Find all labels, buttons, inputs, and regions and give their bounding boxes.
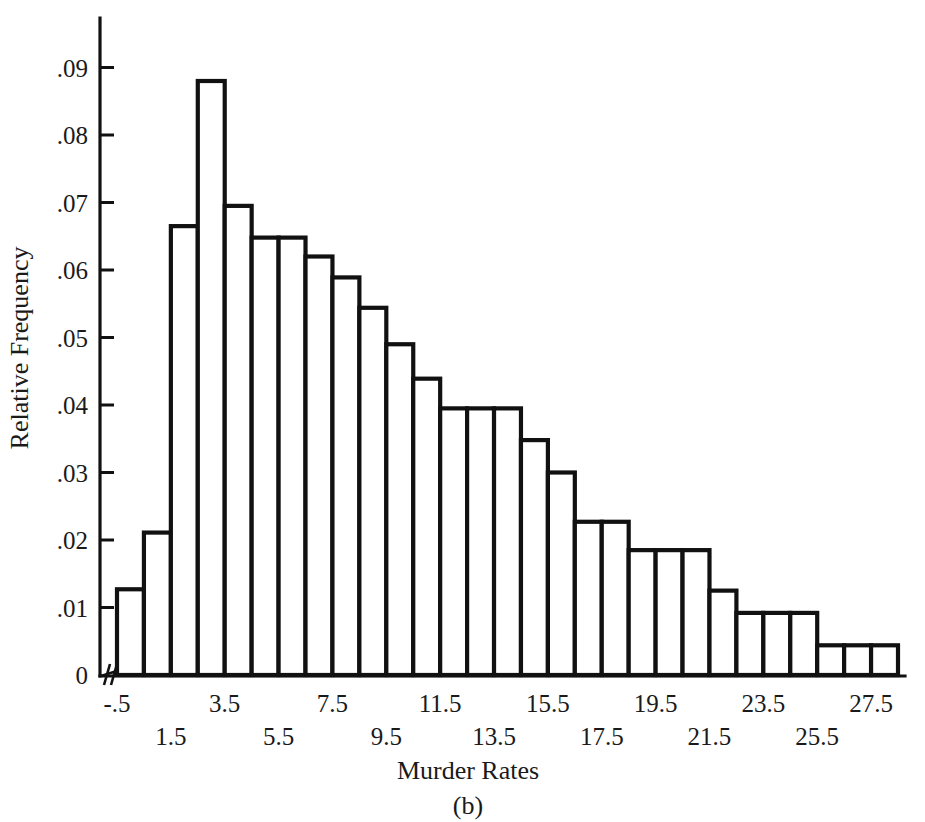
histogram-bar (763, 613, 790, 675)
histogram-bar (359, 308, 386, 675)
y-axis-tick-label: .05 (57, 325, 88, 352)
histogram-bar (279, 238, 306, 675)
y-axis-tick-label: 0 (76, 662, 89, 689)
histogram-bar (494, 408, 521, 675)
histogram-bar (844, 645, 871, 675)
x-axis-tick-label: 15.5 (526, 690, 570, 717)
y-axis-tick-label: .09 (57, 55, 88, 82)
x-axis-tick-label: 1.5 (155, 723, 186, 750)
y-axis-tick-label: .03 (57, 460, 88, 487)
histogram-bar (225, 206, 252, 675)
histogram-bar (521, 440, 548, 675)
histogram-bar (817, 645, 844, 675)
histogram-bar (332, 277, 359, 675)
histogram-bar (144, 533, 171, 675)
y-axis-tick-label: .08 (57, 122, 88, 149)
y-axis-tick-label: .06 (57, 257, 88, 284)
x-axis-tick-label: 3.5 (209, 690, 240, 717)
y-axis-tick-labels: 0.01.02.03.04.05.06.07.08.09 (57, 55, 89, 690)
x-axis-title: Murder Rates (397, 756, 539, 785)
histogram-bar (440, 408, 467, 675)
histogram-bar (790, 613, 817, 675)
histogram-bar (548, 473, 575, 676)
y-axis-tick-label: .01 (57, 595, 88, 622)
y-axis-ticks (100, 68, 114, 676)
histogram-bar (467, 408, 494, 675)
histogram-bar (252, 238, 279, 675)
x-axis-tick-label: -.5 (103, 690, 130, 717)
histogram-bars (117, 81, 898, 675)
histogram-bar (871, 645, 898, 675)
y-axis-tick-label: .07 (57, 190, 88, 217)
histogram-bar (198, 81, 225, 675)
histogram-bar (117, 589, 144, 675)
x-axis-tick-label: 21.5 (688, 723, 732, 750)
x-axis-tick-label: 11.5 (419, 690, 462, 717)
x-axis-tick-label: 19.5 (634, 690, 678, 717)
histogram-bar (306, 257, 333, 676)
x-axis-tick-label: 17.5 (580, 723, 624, 750)
y-axis-tick-label: .02 (57, 527, 88, 554)
histogram-bar (656, 550, 683, 675)
histogram-bar (602, 522, 629, 675)
histogram-figure: 0.01.02.03.04.05.06.07.08.09 -.51.53.55.… (0, 0, 925, 822)
x-axis-tick-label: 7.5 (317, 690, 348, 717)
histogram-bar (386, 344, 413, 675)
histogram-chart: 0.01.02.03.04.05.06.07.08.09 -.51.53.55.… (0, 0, 925, 822)
panel-label: (b) (453, 791, 483, 820)
histogram-bar (629, 550, 656, 675)
x-axis-tick-label: 25.5 (795, 723, 839, 750)
x-axis-tick-label: 27.5 (849, 690, 893, 717)
x-axis-tick-label: 23.5 (741, 690, 785, 717)
histogram-bar (575, 522, 602, 675)
x-axis-tick-labels: -.51.53.55.57.59.511.513.515.517.519.521… (103, 690, 892, 750)
histogram-bar (709, 591, 736, 675)
histogram-bar (683, 550, 710, 675)
histogram-bar (413, 379, 440, 675)
histogram-bar (171, 226, 198, 675)
histogram-bar (736, 613, 763, 675)
x-axis-tick-label: 9.5 (371, 723, 402, 750)
y-axis-title: Relative Frequency (5, 247, 34, 450)
x-axis-tick-label: 13.5 (472, 723, 516, 750)
y-axis-tick-label: .04 (57, 392, 89, 419)
x-axis-tick-label: 5.5 (263, 723, 294, 750)
